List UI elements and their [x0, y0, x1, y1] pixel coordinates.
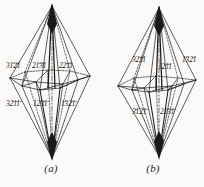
label-layer-a: 31̄2̄1 21̄3̄1 22̄1̄1 32̄1̄1̄ 12̄3̄1̄ 1̄3… — [0, 0, 102, 165]
face-label-b-lower-1: 3̄12̄1̄ — [132, 108, 146, 115]
face-label-a-lower-1: 32̄1̄1̄ — [6, 100, 20, 107]
face-label-a-upper-1: 31̄2̄1 — [6, 62, 20, 69]
crystal-panel-a: 31̄2̄1 21̄3̄1 22̄1̄1 32̄1̄1̄ 12̄3̄1̄ 1̄3… — [0, 0, 102, 187]
face-label-a-upper-2: 21̄3̄1 — [32, 62, 46, 69]
face-label-b-upper-3: 1̄32̄1 — [182, 56, 196, 63]
face-label-a-lower-2: 12̄3̄1̄ — [33, 100, 47, 107]
face-label-b-lower-2: 21̄3̄1̄ — [160, 108, 174, 115]
face-label-a-upper-3: 22̄1̄1 — [59, 62, 73, 69]
panel-caption-a: (a) — [0, 162, 102, 174]
panel-caption-b: (b) — [102, 162, 204, 174]
face-label-b-upper-2: 12̄1̄1 — [158, 63, 172, 70]
label-layer-b: 32̄1̄1 12̄1̄1 1̄32̄1 3̄12̄1̄ 21̄3̄1̄ — [102, 0, 204, 165]
face-label-a-lower-3: 1̄32̄1̄ — [61, 100, 75, 107]
crystallography-figure: 31̄2̄1 21̄3̄1 22̄1̄1 32̄1̄1̄ 12̄3̄1̄ 1̄3… — [0, 0, 204, 187]
crystal-panel-b: 32̄1̄1 12̄1̄1 1̄32̄1 3̄12̄1̄ 21̄3̄1̄ (b) — [102, 0, 204, 187]
face-label-b-upper-1: 32̄1̄1 — [132, 56, 146, 63]
